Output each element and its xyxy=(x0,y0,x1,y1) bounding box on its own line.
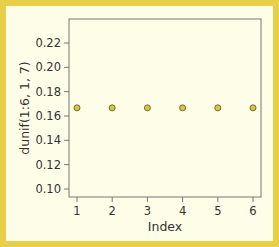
data-point xyxy=(109,105,115,111)
y-tick-label: 0.12 xyxy=(35,158,61,172)
x-tick-label: 3 xyxy=(144,204,151,218)
y-tick-label: 0.16 xyxy=(35,109,61,123)
y-tick-label: 0.22 xyxy=(35,36,61,50)
x-axis-title: Index xyxy=(148,219,182,234)
data-point xyxy=(250,105,256,111)
data-point xyxy=(144,105,150,111)
y-tick-label: 0.18 xyxy=(35,85,61,99)
data-point xyxy=(215,105,221,111)
x-tick-label: 1 xyxy=(73,204,80,218)
x-tick-label: 6 xyxy=(249,204,256,218)
plot-box xyxy=(69,19,261,197)
y-axis-title: dunif(1:6, 1, 7) xyxy=(17,61,32,154)
y-tick-label: 0.10 xyxy=(35,182,61,196)
y-tick-label: 0.20 xyxy=(35,60,61,74)
x-tick-label: 5 xyxy=(214,204,221,218)
x-tick-label: 2 xyxy=(109,204,116,218)
scatter-chart: 0.100.120.140.160.180.200.22123456Indexd… xyxy=(0,0,279,247)
y-tick-label: 0.14 xyxy=(35,133,61,147)
data-point xyxy=(180,105,186,111)
data-point xyxy=(74,105,80,111)
x-tick-label: 4 xyxy=(179,204,186,218)
